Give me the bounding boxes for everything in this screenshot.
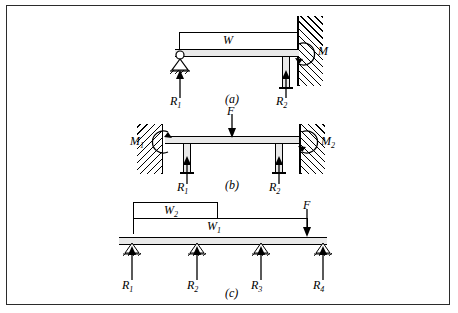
reaction-arrow-R2-c	[191, 246, 203, 280]
label-load-F-c: F	[303, 198, 310, 213]
load-arrow-F-c	[301, 209, 313, 237]
label-reaction-R1-c: R1	[122, 278, 133, 294]
reaction-arrow-R4-c	[317, 246, 329, 280]
reaction-arrow-R3-c	[255, 246, 267, 280]
label-reaction-R1-b: R1	[177, 180, 188, 196]
sub-1-a: 1	[177, 101, 181, 110]
sub-r1-c: 1	[129, 285, 133, 294]
sub-r4-c: 4	[320, 285, 324, 294]
sub-2-a: 2	[283, 101, 287, 110]
label-span-W2-c: W2	[164, 203, 178, 219]
sub-r1-b: 1	[184, 187, 188, 196]
dim-tick-left-c-lower	[133, 218, 134, 234]
reaction-arrow-R1-c	[126, 246, 138, 280]
sub-w1-c: 1	[217, 226, 221, 235]
label-reaction-R1-a: R1	[170, 94, 181, 110]
label-span-W-a: W	[223, 33, 233, 48]
caption-b: (b)	[225, 178, 239, 193]
moment-arrow-M1-b	[149, 128, 175, 156]
sub-r3-c: 3	[258, 285, 262, 294]
label-reaction-R2-b: R2	[269, 180, 280, 196]
label-reaction-R4-c: R4	[313, 278, 324, 294]
label-moment-M-a: M	[318, 44, 328, 59]
caption-c: (c)	[225, 286, 238, 301]
sub-r2-c: 2	[194, 285, 198, 294]
sub-r2-b: 2	[276, 187, 280, 196]
moment-arrow-a	[293, 39, 319, 69]
label-reaction-R2-c: R2	[187, 278, 198, 294]
beam-c	[119, 237, 327, 245]
label-moment-M2-b: M2	[321, 134, 335, 150]
moment-arrow-M2-b	[295, 128, 321, 156]
label-moment-M1-b: M1	[130, 134, 144, 150]
dim-tick-right-c-upper	[217, 202, 218, 218]
label-span-W1-c: W1	[207, 219, 221, 235]
label-reaction-R2-a: R2	[276, 94, 287, 110]
dim-line-a	[179, 32, 298, 33]
dim-tick-left-a	[179, 32, 180, 50]
sub-m2-b: 2	[331, 141, 335, 150]
label-reaction-R3-c: R3	[251, 278, 262, 294]
sub-m1-b: 1	[140, 141, 144, 150]
dim-tick-left-c-upper	[133, 202, 134, 218]
figure-frame: W M R1 R2 (a)	[6, 5, 450, 305]
label-load-F-b: F	[227, 104, 234, 119]
